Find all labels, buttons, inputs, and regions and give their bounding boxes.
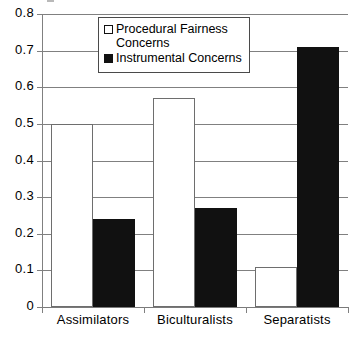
legend-swatch-filled-square-icon: [104, 54, 113, 63]
y-axis-tick-label: 0.5: [0, 118, 34, 128]
legend-label-instrumental: Instrumental Concerns: [116, 51, 242, 65]
y-tick-mark: [37, 234, 42, 235]
bar-instrumental-biculturalists: [195, 208, 237, 307]
y-tick-mark: [37, 87, 42, 88]
y-axis-tick-label: 0: [0, 301, 34, 311]
y-tick-mark: [37, 14, 42, 15]
gridline: [42, 307, 348, 308]
legend-swatch-open-square-icon: [104, 25, 113, 34]
legend-item-procedural-fairness-concerns: Procedural Fairness Concerns: [104, 22, 244, 50]
bar-chart: 0.80.70.60.50.40.30.20.10 AssimilatorsBi…: [0, 0, 360, 346]
y-tick-mark: [37, 51, 42, 52]
y-tick-mark: [37, 270, 42, 271]
category-separator-tick: [348, 307, 349, 313]
y-tick-mark: [37, 161, 42, 162]
y-axis-tick-label: 0.2: [0, 228, 34, 238]
y-axis-tick-label: 0.6: [0, 81, 34, 91]
bar-instrumental-assimilators: [93, 219, 135, 307]
y-tick-mark: [37, 197, 42, 198]
bar-instrumental-separatists: [297, 47, 339, 307]
bar-procedural-separatists: [255, 267, 297, 307]
x-axis-label-biculturalists: Biculturalists: [144, 312, 246, 327]
bar-procedural-biculturalists: [153, 98, 195, 307]
y-axis-tick-label: 0.4: [0, 155, 34, 165]
y-axis-tick-label: 0.7: [0, 45, 34, 55]
x-axis-label-separatists: Separatists: [246, 312, 348, 327]
y-axis-line: [42, 14, 43, 307]
y-axis-tick-labels: 0.80.70.60.50.40.30.20.10: [0, 0, 34, 346]
chart-legend: Procedural Fairness Concerns Instrumenta…: [98, 17, 250, 73]
x-axis-label-assimilators: Assimilators: [42, 312, 144, 327]
y-axis-tick-label: 0.1: [0, 264, 34, 274]
y-tick-mark: [37, 124, 42, 125]
gridline: [42, 14, 348, 15]
top-edge-artifact: [47, 0, 54, 2]
y-axis-tick-label: 0.8: [0, 8, 34, 18]
legend-label-procedural: Procedural Fairness Concerns: [116, 22, 228, 50]
legend-item-instrumental-concerns: Instrumental Concerns: [104, 51, 244, 65]
y-axis-tick-label: 0.3: [0, 191, 34, 201]
bar-procedural-assimilators: [51, 124, 93, 307]
